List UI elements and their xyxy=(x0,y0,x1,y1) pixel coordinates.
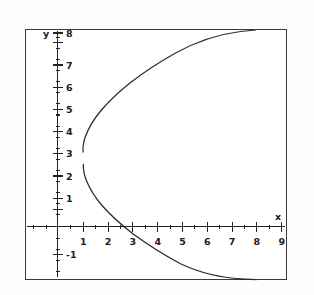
x-tick-label: 1 xyxy=(80,236,87,247)
x-tick-label: 3 xyxy=(130,236,137,247)
y-tick-label: 5 xyxy=(66,104,73,115)
x-tick-label: 9 xyxy=(278,236,285,247)
x-tick-label: 2 xyxy=(105,236,112,247)
y-tick-label: 7 xyxy=(66,60,73,71)
y-tick-label: 6 xyxy=(66,82,73,93)
y-tick-label: 8 xyxy=(66,28,73,39)
x-tick-label: 5 xyxy=(179,236,186,247)
graph-figure: 1 2 3 4 5 6 7 8 9 -1 1 2 3 4 5 6 7 8 x y xyxy=(0,0,314,295)
curve-lower-branch xyxy=(83,164,256,279)
y-tick-label: 1 xyxy=(66,193,73,204)
x-tick-label: 7 xyxy=(229,236,236,247)
curve-upper-branch xyxy=(83,30,256,152)
x-tick-labels: 1 2 3 4 5 6 7 8 9 xyxy=(80,236,285,247)
y-tick-label: 2 xyxy=(66,171,73,182)
x-tick-label: 4 xyxy=(154,236,161,247)
y-tick-label: 4 xyxy=(66,126,73,137)
x-tick-label: 6 xyxy=(204,236,211,247)
y-tick-label: 3 xyxy=(66,148,73,159)
x-axis-label: x xyxy=(275,211,281,222)
y-tick-label: -1 xyxy=(66,249,77,260)
x-tick-label: 8 xyxy=(254,236,261,247)
y-axis-label: y xyxy=(43,28,50,39)
graph-svg: 1 2 3 4 5 6 7 8 9 -1 1 2 3 4 5 6 7 8 x y xyxy=(0,0,314,295)
